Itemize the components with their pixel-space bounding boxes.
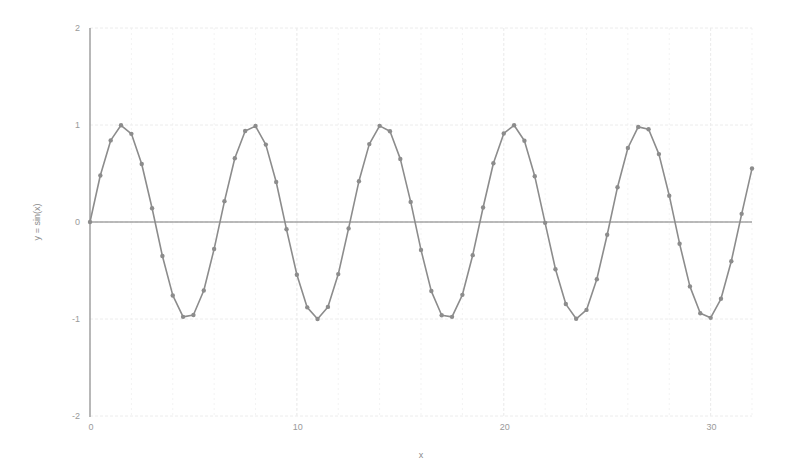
data-point	[708, 316, 712, 320]
data-point	[584, 308, 588, 312]
x-tick-label: 20	[500, 422, 510, 432]
data-point	[88, 220, 92, 224]
data-point	[677, 242, 681, 246]
data-point	[450, 315, 454, 319]
data-point	[284, 227, 288, 231]
data-point	[729, 259, 733, 263]
data-point	[522, 139, 526, 143]
data-point	[739, 212, 743, 216]
data-point	[212, 247, 216, 251]
data-point	[253, 124, 257, 128]
data-point	[750, 166, 754, 170]
data-point	[202, 288, 206, 292]
data-point	[408, 200, 412, 204]
data-point	[419, 248, 423, 252]
data-point	[295, 273, 299, 277]
y-tick-label: 1	[75, 120, 80, 130]
data-point	[222, 199, 226, 203]
x-tick-label: 0	[88, 422, 93, 432]
data-point	[574, 317, 578, 321]
data-point	[129, 132, 133, 136]
data-point	[688, 284, 692, 288]
data-point	[119, 123, 123, 127]
data-point	[388, 129, 392, 133]
data-point	[512, 123, 516, 127]
x-tick-label: 10	[293, 422, 303, 432]
data-point	[398, 157, 402, 161]
data-point	[264, 142, 268, 146]
data-point	[471, 253, 475, 257]
data-point	[719, 297, 723, 301]
data-point	[98, 173, 102, 177]
data-point	[553, 267, 557, 271]
data-point	[564, 302, 568, 306]
data-point	[502, 131, 506, 135]
x-axis-label: x	[419, 450, 424, 460]
data-point	[460, 293, 464, 297]
data-point	[171, 293, 175, 297]
data-point	[160, 254, 164, 258]
data-point	[626, 146, 630, 150]
data-point	[191, 313, 195, 317]
data-point	[533, 174, 537, 178]
data-point	[140, 162, 144, 166]
data-point	[357, 179, 361, 183]
data-point	[646, 127, 650, 131]
data-point	[481, 205, 485, 209]
data-point	[595, 277, 599, 281]
data-point	[377, 124, 381, 128]
x-tick-labels: 0102030	[88, 422, 716, 432]
y-tick-label: -1	[72, 314, 80, 324]
y-tick-label: 2	[75, 23, 80, 33]
data-point	[439, 313, 443, 317]
data-point	[657, 152, 661, 156]
data-point	[543, 221, 547, 225]
data-point	[233, 156, 237, 160]
data-point	[429, 289, 433, 293]
line-chart: 210-1-2 0102030 x y = sin(x)	[0, 0, 789, 471]
data-point	[346, 226, 350, 230]
data-point	[108, 138, 112, 142]
data-point	[698, 311, 702, 315]
x-tick-label: 30	[707, 422, 717, 432]
data-point	[605, 233, 609, 237]
data-point	[243, 129, 247, 133]
data-point	[181, 315, 185, 319]
data-point	[326, 305, 330, 309]
data-point	[615, 185, 619, 189]
y-tick-labels: 210-1-2	[72, 23, 80, 421]
data-point	[274, 180, 278, 184]
data-point	[305, 305, 309, 309]
data-point	[636, 125, 640, 129]
data-point	[667, 194, 671, 198]
data-point	[367, 142, 371, 146]
data-point	[315, 317, 319, 321]
y-tick-label: 0	[75, 217, 80, 227]
data-point	[150, 206, 154, 210]
y-axis-label: y = sin(x)	[32, 204, 42, 241]
data-point	[491, 161, 495, 165]
data-point	[336, 272, 340, 276]
y-tick-label: -2	[72, 411, 80, 421]
